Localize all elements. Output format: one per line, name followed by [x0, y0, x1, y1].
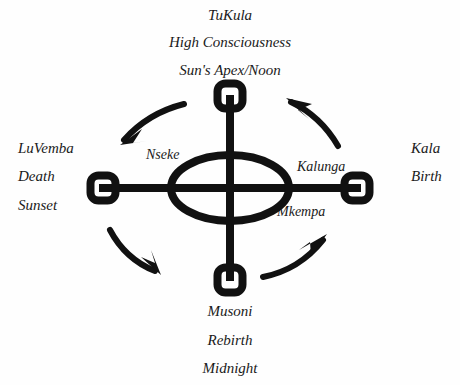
arrowhead-lower-right: [299, 234, 327, 256]
cosmogram-figure: TuKula High Consciousness Sun's Apex/Noo…: [0, 0, 460, 385]
arrow-upper-left: [124, 104, 184, 140]
cross-horizontal-line: [99, 184, 361, 192]
cosmogram-drawing: [0, 0, 460, 385]
arrow-lower-left: [110, 230, 155, 271]
